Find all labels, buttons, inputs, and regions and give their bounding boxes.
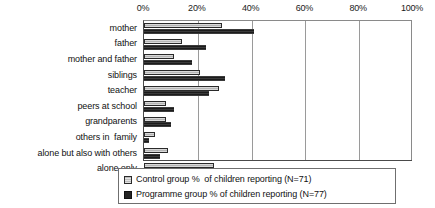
x-axis-baseline bbox=[143, 160, 412, 161]
programme-bar bbox=[144, 122, 171, 127]
x-tick-label: 60% bbox=[296, 2, 313, 14]
category-label: mother and father bbox=[0, 51, 141, 67]
x-tick-label: 80% bbox=[349, 2, 366, 14]
control-bar bbox=[144, 39, 182, 44]
bar-rows bbox=[144, 21, 411, 160]
bar-row bbox=[144, 21, 411, 37]
programme-bar bbox=[144, 45, 206, 50]
bar-row bbox=[144, 114, 411, 130]
programme-bar bbox=[144, 29, 254, 34]
control-bar bbox=[144, 86, 219, 91]
y-axis-category-labels: motherfathermother and fathersiblingstea… bbox=[0, 20, 141, 176]
programme-swatch-icon bbox=[124, 191, 132, 199]
plot-area bbox=[143, 20, 412, 160]
programme-bar bbox=[144, 107, 174, 112]
legend-item-control: Control group % of children reporting (N… bbox=[124, 172, 390, 187]
category-label: father bbox=[0, 36, 141, 52]
x-tick-label: 20% bbox=[188, 2, 205, 14]
control-bar bbox=[144, 117, 166, 122]
programme-bar bbox=[144, 138, 149, 143]
category-label: grandparents bbox=[0, 114, 141, 130]
x-tick-label: 0% bbox=[137, 2, 150, 14]
programme-bar bbox=[144, 60, 192, 65]
bar-row bbox=[144, 68, 411, 84]
bar-row bbox=[144, 52, 411, 68]
category-label: others in family bbox=[0, 129, 141, 145]
control-swatch-icon bbox=[124, 176, 132, 184]
bar-row bbox=[144, 83, 411, 99]
control-bar bbox=[144, 101, 166, 106]
control-bar bbox=[144, 70, 200, 75]
bar-row bbox=[144, 145, 411, 161]
bar-row bbox=[144, 99, 411, 115]
category-label: mother bbox=[0, 20, 141, 36]
category-label: alone but also with others bbox=[0, 145, 141, 161]
x-tick-label: 100% bbox=[401, 2, 423, 14]
control-bar bbox=[144, 23, 222, 28]
legend-item-programme: Programme group % of children reporting … bbox=[124, 187, 390, 202]
category-label: siblings bbox=[0, 67, 141, 83]
grouped-bar-chart: 0%20%40%60%80%100% motherfathermother an… bbox=[0, 0, 435, 208]
x-tick-label: 40% bbox=[242, 2, 259, 14]
programme-bar bbox=[144, 91, 209, 96]
control-bar bbox=[144, 148, 168, 153]
x-axis-tick-labels: 0%20%40%60%80%100% bbox=[0, 2, 435, 16]
chart-legend: Control group % of children reporting (N… bbox=[118, 168, 396, 204]
bar-row bbox=[144, 130, 411, 146]
category-label: peers at school bbox=[0, 98, 141, 114]
programme-bar bbox=[144, 154, 160, 159]
legend-label-control: Control group % of children reporting (N… bbox=[136, 174, 311, 185]
programme-bar bbox=[144, 76, 225, 81]
control-bar bbox=[144, 54, 174, 59]
category-label: teacher bbox=[0, 82, 141, 98]
legend-label-programme: Programme group % of children reporting … bbox=[136, 189, 327, 200]
control-bar bbox=[144, 132, 155, 137]
bar-row bbox=[144, 37, 411, 53]
